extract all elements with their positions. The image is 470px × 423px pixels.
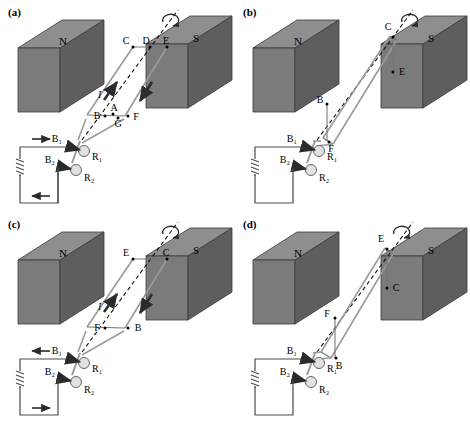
ring1-label: R₁ xyxy=(92,363,102,374)
resistor-symbol xyxy=(251,158,259,176)
point-label-b: B xyxy=(317,94,324,105)
north-pole-label: N xyxy=(59,247,67,259)
south-pole-label: S xyxy=(193,244,199,256)
external-circuit xyxy=(20,359,66,415)
magnet-north: N xyxy=(253,20,339,112)
current-label: I xyxy=(97,89,102,100)
external-circuit xyxy=(255,147,301,203)
brush1-label: B₁ xyxy=(52,345,62,356)
magnet-south: S xyxy=(146,228,232,320)
point-label-f: F xyxy=(133,111,139,122)
panel-a-drawing: N S xyxy=(0,0,235,211)
point-label-e: E xyxy=(378,233,384,244)
point-label-e: E xyxy=(123,247,129,258)
ring2-label: R₂ xyxy=(84,384,94,395)
slip-rings xyxy=(306,141,325,176)
magnet-north: N xyxy=(18,232,104,324)
brush2-label: B₂ xyxy=(280,366,290,377)
magnet-south: S xyxy=(381,16,467,108)
ring2-label: R₂ xyxy=(319,172,329,183)
point-label-b: B xyxy=(94,110,101,121)
ring1-label: R₁ xyxy=(327,151,337,162)
brush2-label: B₂ xyxy=(280,154,290,165)
panel-a: (a) N S xyxy=(0,0,235,211)
current-arrow-left xyxy=(104,82,117,100)
point-label-d: D xyxy=(142,35,149,46)
panel-d-drawing: N S xyxy=(235,212,470,423)
point-label-g: G xyxy=(114,118,121,129)
point-label-f: F xyxy=(94,322,100,333)
magnet-south: S xyxy=(381,228,467,320)
slip-rings xyxy=(71,141,90,176)
external-circuit xyxy=(255,359,301,415)
point-label-c: C xyxy=(123,35,130,46)
magnet-south: S xyxy=(146,16,232,108)
point-label-c: C xyxy=(385,21,392,32)
rotation-arrow xyxy=(402,14,418,26)
brush1-label: B₁ xyxy=(287,345,297,356)
brush2-label: B₂ xyxy=(45,154,55,165)
external-circuit xyxy=(20,147,66,203)
panel-c: (c) N S xyxy=(0,212,235,423)
ring2-label: R₂ xyxy=(84,172,94,183)
ring2-label: R₂ xyxy=(319,384,329,395)
current-arrow-left xyxy=(104,294,117,312)
point-label-b: B xyxy=(135,322,142,333)
north-pole-label: N xyxy=(294,247,302,259)
figure-root: (a) N S xyxy=(0,0,470,423)
slip-rings xyxy=(71,353,90,388)
south-pole-label: S xyxy=(428,244,434,256)
point-label-e: E xyxy=(399,66,405,77)
resistor-symbol xyxy=(16,158,24,176)
resistor-symbol xyxy=(251,370,259,388)
resistor-symbol xyxy=(16,370,24,388)
south-pole-label: S xyxy=(428,32,434,44)
point-label-e: E xyxy=(163,35,169,46)
loop-vertices xyxy=(334,248,389,360)
point-label-c: C xyxy=(163,247,170,258)
current-label: I xyxy=(97,301,102,312)
brush1-label: B₁ xyxy=(287,133,297,144)
panel-c-drawing: N S E xyxy=(0,212,235,423)
ring1-label: R₁ xyxy=(92,151,102,162)
north-pole-label: N xyxy=(59,35,67,47)
ring1-label: R₁ xyxy=(327,363,337,374)
rotation-arrow xyxy=(394,226,410,238)
point-label-c: C xyxy=(393,282,400,293)
panel-b-drawing: N S xyxy=(235,0,470,211)
point-label-a: A xyxy=(110,102,118,113)
north-pole-label: N xyxy=(294,35,302,47)
panel-b: (b) N S xyxy=(235,0,470,211)
point-label-f: F xyxy=(324,308,330,319)
south-pole-label: S xyxy=(193,32,199,44)
panel-d: (d) N S xyxy=(235,212,470,423)
brush1-label: B₁ xyxy=(52,133,62,144)
slip-rings xyxy=(306,353,325,388)
brush2-label: B₂ xyxy=(45,366,55,377)
magnet-north: N xyxy=(18,20,104,112)
